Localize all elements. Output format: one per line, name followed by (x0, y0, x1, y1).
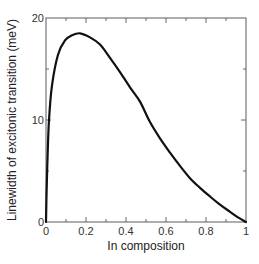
x-tick-label: 0.8 (198, 225, 213, 237)
y-axis-title: Linewidth of excitonic transition (meV) (5, 19, 19, 221)
y-tick-labels: 01020 (32, 12, 44, 228)
x-tick-label: 0.4 (118, 225, 133, 237)
x-tick-labels: 00.20.40.60.81 (43, 225, 249, 237)
y-tick-label: 10 (32, 114, 44, 126)
chart: 00.20.40.60.81 01020 In composition Line… (0, 0, 259, 264)
axis-ticks (46, 18, 246, 222)
series-line-linewidth (46, 33, 246, 222)
y-tick-label: 0 (38, 216, 44, 228)
series-group (46, 33, 246, 222)
x-axis-title: In composition (107, 239, 184, 253)
plot-border (46, 18, 246, 222)
y-tick-label: 20 (32, 12, 44, 24)
x-tick-label: 0.2 (78, 225, 93, 237)
plot-frame (46, 18, 246, 222)
x-tick-label: 1 (243, 225, 249, 237)
x-tick-label: 0.6 (158, 225, 173, 237)
